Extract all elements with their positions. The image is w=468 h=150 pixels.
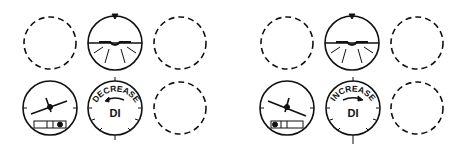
right-panel: [260, 14, 443, 144]
empty-instrument-slot: [154, 17, 206, 69]
left-panel: [23, 14, 206, 140]
increase-label: INCREASE: [328, 83, 378, 103]
empty-instrument-slot: [24, 17, 76, 69]
empty-instrument-slot: [261, 17, 313, 69]
slip-ball: [273, 122, 278, 127]
empty-instrument-slot: [391, 82, 443, 134]
attitude-indicator: [325, 14, 379, 70]
turn-coordinator: [260, 81, 314, 135]
di-label: DI: [348, 107, 359, 119]
empty-instrument-slot: [154, 82, 206, 134]
empty-instrument-slot: [391, 17, 443, 69]
di-label: DI: [110, 107, 121, 119]
instrument-diagram: DECREASE DI: [0, 0, 468, 150]
slip-ball: [58, 122, 63, 127]
attitude-indicator: [88, 14, 142, 70]
turn-coordinator: [23, 81, 77, 135]
